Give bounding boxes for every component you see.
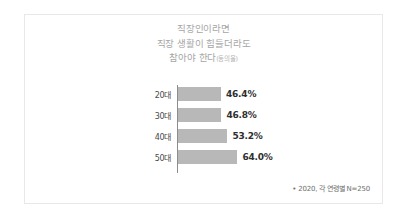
bar-50: [178, 150, 237, 164]
chart-title-text-3: 참아야 한다: [169, 52, 216, 63]
bar-value-50: 64.0%: [242, 152, 272, 162]
bar-value-20: 46.4%: [226, 89, 256, 99]
category-label-50: 50대: [25, 152, 175, 163]
chart-card: 직장인이라면 직장 생활이 힘들더라도 참아야 한다(동의율) 20대 46.4…: [24, 14, 383, 204]
chart-title: 직장인이라면 직장 생활이 힘들더라도 참아야 한다(동의율): [25, 22, 382, 67]
table-row: 50대 64.0%: [25, 150, 382, 164]
chart-title-line-3: 참아야 한다(동의율): [25, 51, 382, 67]
chart-title-note: (동의율): [216, 55, 238, 63]
chart-footnote: •2020, 각 연령별 N=250: [292, 183, 370, 193]
bar-40: [178, 129, 227, 143]
category-label-20: 20대: [25, 89, 175, 100]
table-row: 20대 46.4%: [25, 87, 382, 101]
bar-rows: 20대 46.4% 30대 46.8% 40대 53.2%: [25, 87, 382, 171]
bar-container-20: 46.4%: [178, 87, 382, 101]
bar-container-30: 46.8%: [178, 108, 382, 122]
chart-footnote-text: 2020, 각 연령별 N=250: [298, 185, 370, 193]
category-label-30: 30대: [25, 110, 175, 121]
chart-title-line-1: 직장인이라면: [25, 22, 382, 37]
bar-value-40: 53.2%: [232, 131, 262, 141]
chart-plot-area: 20대 46.4% 30대 46.8% 40대 53.2%: [25, 85, 382, 177]
bar-container-40: 53.2%: [178, 129, 382, 143]
table-row: 30대 46.8%: [25, 108, 382, 122]
bar-20: [178, 87, 221, 101]
bar-value-30: 46.8%: [226, 110, 256, 120]
table-row: 40대 53.2%: [25, 129, 382, 143]
bar-30: [178, 108, 221, 122]
bullet-icon: •: [292, 185, 296, 193]
chart-title-line-2: 직장 생활이 힘들더라도: [25, 37, 382, 52]
bar-container-50: 64.0%: [178, 150, 382, 164]
category-label-40: 40대: [25, 131, 175, 142]
